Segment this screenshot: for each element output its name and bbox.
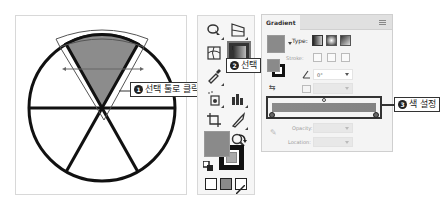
opacity-field[interactable] — [313, 123, 353, 133]
opacity-label: Opacity: — [292, 125, 313, 131]
callout-number: 2 — [230, 61, 239, 70]
aspect-ratio-field[interactable] — [313, 83, 353, 94]
radial-type-button[interactable] — [326, 35, 337, 46]
callout-text: 선택 툴로 클릭 — [145, 84, 199, 95]
chevron-down-icon[interactable] — [345, 73, 349, 76]
linear-type-button[interactable] — [312, 35, 323, 46]
callout-select: 2 선택 — [226, 58, 261, 73]
stroke-label: Stroke: — [286, 55, 304, 61]
callout-set-color: 3 색 설정 — [394, 97, 440, 112]
artboard[interactable] — [15, 15, 187, 195]
panel-header: Gradient — [262, 15, 392, 30]
gradient-panel: Gradient ⇆ Type: Stroke: 0° ✎ Opaci — [261, 14, 393, 152]
location-field[interactable] — [313, 137, 353, 147]
gradient-slider-highlight — [266, 96, 382, 119]
type-label: Type: — [292, 37, 308, 44]
color-mode-button[interactable] — [205, 178, 217, 190]
eyedropper-icon[interactable]: ✎ — [270, 128, 277, 137]
panel-menu-icon[interactable] — [379, 20, 386, 25]
stage: 1 선택 툴로 클릭 — [0, 0, 448, 208]
fill-swatch[interactable] — [267, 59, 280, 72]
callout-number: 1 — [134, 85, 143, 94]
gradient-stop-end[interactable] — [373, 112, 379, 118]
stroke-within-button[interactable] — [313, 53, 322, 62]
angle-value: 0° — [317, 72, 323, 78]
angle-field[interactable]: 0° — [313, 69, 353, 80]
gradient-slider[interactable] — [272, 103, 376, 112]
none-mode-button[interactable] — [235, 178, 247, 190]
gradient-midpoint[interactable] — [322, 98, 326, 102]
tab-gradient[interactable]: Gradient — [262, 15, 300, 30]
angle-icon — [302, 70, 311, 79]
gradient-preview-swatch[interactable] — [267, 35, 285, 53]
gradient-mode-button[interactable] — [220, 178, 232, 190]
pie-artwork[interactable] — [16, 16, 188, 196]
callout-number: 3 — [398, 100, 407, 109]
aspect-ratio-icon — [302, 85, 311, 93]
reverse-gradient-icon[interactable]: ⇆ — [269, 83, 276, 92]
callout-text: 선택 — [241, 60, 257, 71]
freeform-type-button[interactable] — [340, 35, 351, 46]
stroke-across-button[interactable] — [341, 53, 350, 62]
stroke-along-button[interactable] — [327, 53, 336, 62]
default-colors-icon[interactable] — [203, 161, 213, 171]
gradient-stop-start[interactable] — [269, 112, 275, 118]
callout-text: 색 설정 — [409, 99, 436, 110]
none-slash-icon — [236, 185, 245, 194]
callout-select-tool: 1 선택 툴로 클릭 — [130, 82, 203, 97]
color-controls — [197, 15, 255, 195]
fill-color-swatch[interactable] — [204, 131, 230, 157]
swap-fill-stroke-icon[interactable] — [237, 133, 247, 143]
location-label: Location: — [288, 139, 311, 145]
